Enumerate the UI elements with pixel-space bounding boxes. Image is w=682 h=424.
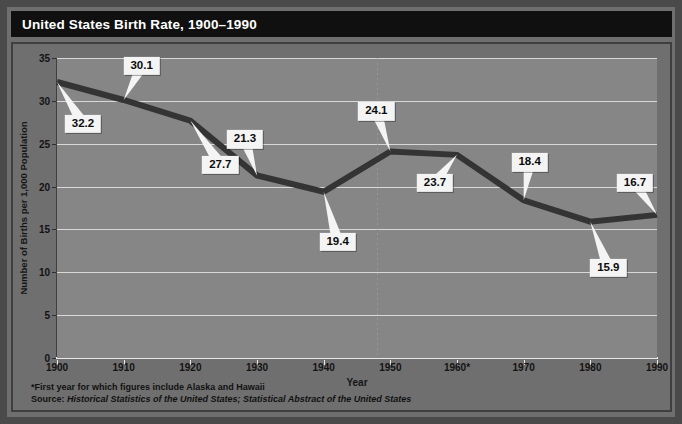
footnote-source-text: Historical Statistics of the United Stat… [65, 394, 412, 404]
y-tick-label: 10 [13, 267, 50, 278]
y-tick-label: 15 [13, 224, 50, 235]
y-tick-mark [52, 272, 56, 273]
data-point-label: 30.1 [123, 57, 159, 75]
chart-title-bar: United States Birth Rate, 1900–1990 [11, 11, 672, 37]
y-tick-label: 0 [13, 353, 50, 364]
y-tick-mark [52, 358, 56, 359]
page-title: United States Birth Rate, 1900–1990 [11, 17, 257, 32]
data-point-label: 24.1 [358, 102, 394, 120]
x-tick-label: 1980 [579, 362, 601, 373]
footnote-asterisk: *First year for which figures include Al… [31, 382, 265, 392]
y-tick-mark [52, 58, 56, 59]
data-point-label: 16.7 [617, 174, 653, 192]
data-point-label: 19.4 [319, 233, 355, 251]
chart-figure: United States Birth Rate, 1900–1990 Numb… [0, 0, 682, 424]
x-tick-label: 1950 [379, 362, 401, 373]
data-point-label: 27.7 [202, 155, 238, 173]
y-tick-mark [52, 315, 56, 316]
x-tick-label: 1970 [513, 362, 535, 373]
data-point-label: 15.9 [590, 259, 626, 277]
y-tick-label: 5 [13, 310, 50, 321]
data-point-label: 18.4 [511, 153, 547, 171]
y-tick-mark [52, 187, 56, 188]
series-polyline [57, 82, 657, 222]
y-tick-mark [52, 101, 56, 102]
y-tick-label: 35 [13, 53, 50, 64]
x-tick-label: 1940 [313, 362, 335, 373]
x-axis-title: Year [346, 377, 367, 388]
data-point-label: 21.3 [227, 130, 263, 148]
y-tick-label: 25 [13, 138, 50, 149]
data-point-label: 32.2 [65, 115, 101, 133]
x-tick-label: 1990 [646, 362, 668, 373]
y-tick-label: 30 [13, 95, 50, 106]
chart-panel: Number of Births per 1,000 Population 05… [11, 42, 672, 412]
x-tick-label: 1920 [179, 362, 201, 373]
gridline [57, 358, 657, 359]
y-tick-mark [52, 144, 56, 145]
x-tick-label: 1960* [444, 362, 470, 373]
birth-rate-line-series [57, 58, 657, 358]
y-tick-mark [52, 229, 56, 230]
plot-area [57, 58, 657, 358]
footnote-source: Source: Historical Statistics of the Uni… [31, 394, 411, 404]
data-point-label: 23.7 [417, 174, 453, 192]
x-tick-label: 1930 [246, 362, 268, 373]
y-tick-label: 20 [13, 181, 50, 192]
x-tick-label: 1910 [113, 362, 135, 373]
x-tick-label: 1900 [46, 362, 68, 373]
footnote-source-lead: Source: [31, 394, 65, 404]
